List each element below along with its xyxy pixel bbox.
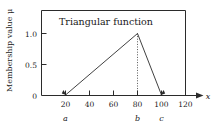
x-axis-arrow-icon	[196, 93, 204, 99]
triangle-path	[66, 34, 162, 96]
y-axis-ticks	[42, 34, 47, 65]
param-label-c: c	[159, 114, 164, 123]
x-tick-label-40: 40	[85, 100, 95, 109]
param-label-b: b	[135, 114, 140, 123]
x-tick-label-80: 80	[133, 100, 143, 109]
x-tick-label-120: 120	[178, 100, 193, 109]
y-tick-label-0: 0	[32, 92, 37, 101]
y-tick-label-1.0: 1.0	[25, 30, 37, 39]
x-tick-label-60: 60	[109, 100, 119, 109]
x-tick-label-20: 20	[61, 100, 71, 109]
chart-figure: Triangular function 1.0 0.5 0 20 40 60 8…	[0, 0, 223, 131]
chart-title: Triangular function	[59, 16, 153, 27]
x-axis-ticks	[66, 91, 186, 96]
triangular-function-chart: Triangular function 1.0 0.5 0 20 40 60 8…	[0, 0, 223, 131]
x-tick-label-100: 100	[154, 100, 169, 109]
param-label-a: a	[63, 114, 68, 123]
x-axis-label: x	[206, 92, 211, 101]
y-axis-label: Membership value μ	[5, 9, 14, 92]
triangle-series	[62, 34, 165, 96]
y-tick-label-0.5: 0.5	[25, 61, 37, 70]
